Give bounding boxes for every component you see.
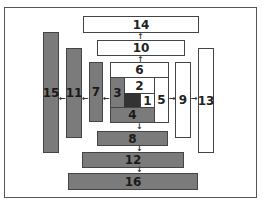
box-6: 6 (110, 62, 169, 78)
arrow-left-3-7: ← (103, 95, 110, 103)
arrow-left-7-11: ← (82, 95, 89, 103)
box-4-label: 4 (128, 108, 136, 122)
box-1: 1 (140, 93, 155, 108)
box-13-label: 13 (198, 94, 215, 108)
box-2: 2 (124, 77, 155, 94)
arrow-left-11-15: ← (59, 95, 66, 103)
box-10: 10 (97, 40, 185, 56)
box-9: 9 (175, 62, 191, 138)
box-12: 12 (82, 152, 184, 168)
box-dark-center (124, 93, 141, 108)
box-7: 7 (89, 62, 103, 122)
box-14: 14 (83, 16, 199, 33)
box-14-label: 14 (133, 18, 150, 32)
box-15-label: 15 (43, 86, 60, 100)
box-11: 11 (66, 48, 82, 138)
box-16: 16 (68, 173, 198, 190)
box-3: 3 (110, 77, 125, 108)
box-6-label: 6 (135, 63, 143, 77)
box-11-label: 11 (66, 86, 83, 100)
box-10-label: 10 (133, 41, 150, 55)
box-9-label: 9 (179, 93, 187, 107)
box-5-label: 5 (157, 93, 165, 107)
box-7-label: 7 (92, 85, 100, 99)
box-1-label: 1 (143, 94, 151, 108)
box-8: 8 (97, 131, 168, 146)
box-5: 5 (154, 77, 169, 123)
box-2-label: 2 (135, 79, 143, 93)
box-16-label: 16 (125, 175, 142, 189)
arrow-down-4-8: ↓ (136, 123, 143, 131)
box-3-label: 3 (113, 86, 121, 100)
box-13: 13 (198, 48, 214, 153)
box-15: 15 (43, 32, 59, 153)
box-4: 4 (110, 107, 155, 123)
